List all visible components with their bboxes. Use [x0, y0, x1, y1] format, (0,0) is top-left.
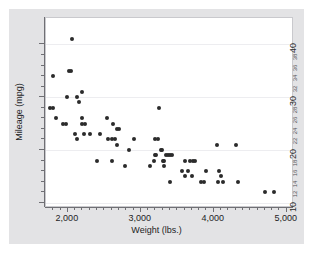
y-axis: [42, 17, 45, 207]
plot-area: [45, 17, 293, 207]
data-point: [180, 169, 184, 173]
data-point: [64, 122, 68, 126]
data-point: [51, 106, 55, 110]
x-tick-label: 2,000: [56, 213, 79, 223]
y-tick-label-minor: 12: [292, 191, 298, 198]
data-point: [70, 37, 74, 41]
x-tick-minor: [52, 208, 53, 210]
data-point: [272, 190, 276, 194]
data-point: [234, 143, 238, 147]
y-tick-minor: [41, 128, 44, 129]
data-point: [65, 95, 69, 99]
x-tick-minor: [257, 208, 258, 210]
x-tick-major: [67, 208, 68, 212]
x-tick-minor: [264, 208, 265, 210]
y-tick-minor: [41, 54, 44, 55]
y-tick-label-minor: 16: [292, 170, 298, 177]
data-point: [217, 169, 221, 173]
data-point: [117, 127, 121, 131]
x-tick-minor: [154, 208, 155, 210]
chart-panel: Mileage (mpg) Weight (lbs.) 102030401214…: [9, 9, 304, 244]
y-tick-label-minor: 22: [292, 138, 298, 145]
x-tick-minor: [60, 208, 61, 210]
y-tick-minor: [41, 170, 44, 171]
data-point: [113, 137, 117, 141]
y-axis-spine: [44, 17, 45, 207]
data-point: [88, 132, 92, 136]
data-point: [162, 159, 166, 163]
y-tick-major: [39, 202, 44, 203]
x-tick-minor: [205, 208, 206, 210]
data-point: [170, 153, 174, 157]
y-tick-label: 30: [288, 96, 298, 106]
data-point: [193, 159, 197, 163]
data-point: [127, 148, 131, 152]
data-point: [54, 116, 58, 120]
y-tick-label: 20: [288, 149, 298, 159]
y-tick-minor: [41, 107, 44, 108]
y-tick-label-minor: 24: [292, 127, 298, 134]
data-point: [190, 174, 194, 178]
x-tick-label: 3,000: [129, 213, 152, 223]
data-point: [156, 137, 160, 141]
data-point: [83, 122, 87, 126]
y-tick-label: 10: [288, 202, 298, 212]
data-point: [221, 180, 225, 184]
x-tick-minor: [176, 208, 177, 210]
y-tick-major: [39, 149, 44, 150]
x-tick-minor: [147, 208, 148, 210]
x-tick-minor: [74, 208, 75, 210]
data-point: [148, 164, 152, 168]
data-point: [168, 180, 172, 184]
y-tick-minor: [41, 138, 44, 139]
y-tick-minor: [41, 160, 44, 161]
x-axis: [45, 207, 293, 211]
data-point: [69, 69, 73, 73]
x-tick-label: 4,000: [201, 213, 224, 223]
x-tick-minor: [198, 208, 199, 210]
y-tick-label-minor: 38: [292, 54, 298, 61]
x-tick-minor: [125, 208, 126, 210]
y-tick-minor: [41, 86, 44, 87]
y-tick-major: [39, 43, 44, 44]
y-tick-label-minor: 14: [292, 180, 298, 187]
x-tick-minor: [111, 208, 112, 210]
y-tick-minor: [41, 75, 44, 76]
data-point: [219, 174, 223, 178]
data-point: [75, 95, 79, 99]
cut-off-header-text: [0, 0, 313, 7]
data-point: [98, 132, 102, 136]
x-tick-minor: [118, 208, 119, 210]
y-tick-minor: [41, 191, 44, 192]
data-point: [216, 180, 220, 184]
x-tick-minor: [96, 208, 97, 210]
data-point: [115, 143, 119, 147]
data-point: [111, 122, 115, 126]
data-point: [82, 132, 86, 136]
data-point: [80, 90, 84, 94]
x-tick-minor: [242, 208, 243, 210]
x-tick-minor: [81, 208, 82, 210]
x-tick-minor: [133, 208, 134, 210]
x-tick-minor: [278, 208, 279, 210]
y-tick-label-minor: 34: [292, 75, 298, 82]
x-tick-major: [213, 208, 214, 212]
data-point: [160, 148, 164, 152]
data-point: [154, 153, 158, 157]
x-tick-minor: [169, 208, 170, 210]
x-tick-minor: [227, 208, 228, 210]
data-point: [77, 100, 81, 104]
scatter-chart-figure: Mileage (mpg) Weight (lbs.) 102030401214…: [9, 9, 304, 244]
y-tick-major: [39, 96, 44, 97]
data-point: [162, 164, 166, 168]
data-point: [202, 180, 206, 184]
data-point: [51, 74, 55, 78]
data-point-layer: [46, 18, 292, 206]
x-tick-minor: [89, 208, 90, 210]
x-tick-minor: [249, 208, 250, 210]
y-tick-minor: [41, 65, 44, 66]
data-point: [80, 116, 84, 120]
x-tick-major: [286, 208, 287, 212]
data-point: [73, 132, 77, 136]
data-point: [75, 137, 79, 141]
